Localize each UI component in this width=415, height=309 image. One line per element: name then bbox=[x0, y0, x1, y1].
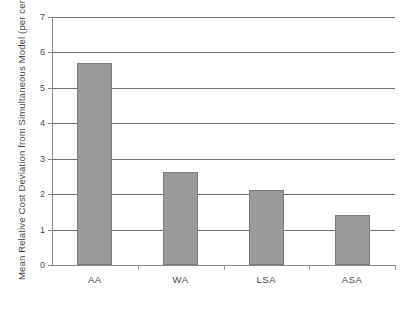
x-tick-mark bbox=[138, 265, 139, 270]
y-tick-label: 6 bbox=[31, 47, 45, 57]
y-tick-label: 4 bbox=[31, 118, 45, 128]
bar-series bbox=[52, 17, 395, 265]
x-tick-mark bbox=[309, 265, 310, 270]
x-tick-label: AA bbox=[60, 274, 130, 285]
y-tick-label: 1 bbox=[31, 225, 45, 235]
x-tick-mark bbox=[224, 265, 225, 270]
x-tick-mark bbox=[395, 265, 396, 270]
x-tick-label: LSA bbox=[231, 274, 301, 285]
y-tick-label: 5 bbox=[31, 83, 45, 93]
x-tick-label: WA bbox=[146, 274, 216, 285]
y-tick-label: 2 bbox=[31, 189, 45, 199]
y-axis-title: Mean Relative Cost Deviation from Simult… bbox=[14, 8, 30, 280]
y-tick-label: 7 bbox=[31, 12, 45, 22]
x-tick-label: ASA bbox=[317, 274, 387, 285]
y-tick-label: 0 bbox=[31, 260, 45, 270]
y-tick-label: 3 bbox=[31, 154, 45, 164]
bar-chart: Mean Relative Cost Deviation from Simult… bbox=[0, 0, 415, 309]
bar-asa bbox=[335, 215, 370, 265]
plot-area: 01234567 bbox=[52, 17, 395, 265]
bar-lsa bbox=[249, 190, 284, 265]
bar-aa bbox=[77, 63, 112, 265]
bar-wa bbox=[163, 172, 198, 265]
